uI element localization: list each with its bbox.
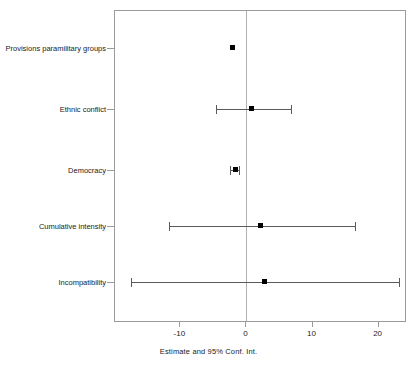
y-axis-tick xyxy=(107,226,114,227)
y-axis-tick xyxy=(107,170,114,171)
y-axis-label: Provisions paramilitary groups xyxy=(6,44,106,53)
y-axis-label: Cumulative intensity xyxy=(39,222,106,231)
y-axis-label: Democracy xyxy=(68,166,106,175)
ci-upper-cap xyxy=(239,166,240,175)
x-axis-title: Estimate and 95% Conf. Int. xyxy=(0,347,417,356)
x-axis-tick xyxy=(312,322,313,327)
ci-upper-cap xyxy=(399,278,400,287)
ci-upper-cap xyxy=(355,222,356,231)
plot-panel xyxy=(114,10,406,322)
forest-row xyxy=(115,220,405,234)
y-axis-tick xyxy=(107,48,114,49)
estimate-point xyxy=(233,167,238,172)
x-axis-tick xyxy=(179,322,180,327)
ci-lower-cap xyxy=(131,278,132,287)
forest-row xyxy=(115,42,405,56)
x-axis-tick-label: 0 xyxy=(225,329,265,339)
forest-row xyxy=(115,103,405,117)
x-axis-tick xyxy=(245,322,246,327)
estimate-point xyxy=(249,106,254,111)
ci-lower-cap xyxy=(230,166,231,175)
forest-row xyxy=(115,164,405,178)
estimate-point xyxy=(262,279,267,284)
x-axis-tick xyxy=(378,322,379,327)
forest-plot-figure: Provisions paramilitary groupsEthnic con… xyxy=(0,0,417,372)
estimate-point xyxy=(230,45,235,50)
ci-lower-cap xyxy=(169,222,170,231)
y-axis-label: Ethnic conflict xyxy=(60,105,106,114)
estimate-point xyxy=(258,223,263,228)
y-axis-tick xyxy=(107,109,114,110)
ci-upper-cap xyxy=(291,105,292,114)
x-axis-tick-label: 10 xyxy=(292,329,332,339)
ci-lower-cap xyxy=(216,105,217,114)
forest-row xyxy=(115,276,405,290)
y-axis-label: Incompatibility xyxy=(58,278,106,287)
x-axis-tick-label: 20 xyxy=(358,329,398,339)
y-axis-tick xyxy=(107,282,114,283)
x-axis-tick-label: -10 xyxy=(159,329,199,339)
